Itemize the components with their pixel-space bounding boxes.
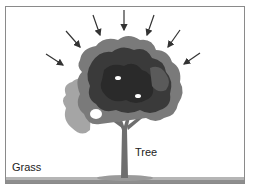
arrow-icon xyxy=(168,30,180,47)
arrow-icon xyxy=(66,31,80,47)
arrow-icon xyxy=(93,15,100,35)
arrow-icon xyxy=(184,53,200,64)
arrow-icon xyxy=(147,15,154,35)
tree-foliage xyxy=(63,36,183,134)
arrow-icon xyxy=(46,54,63,65)
tree-label: Tree xyxy=(135,146,157,158)
grass-label: Grass xyxy=(12,161,41,173)
